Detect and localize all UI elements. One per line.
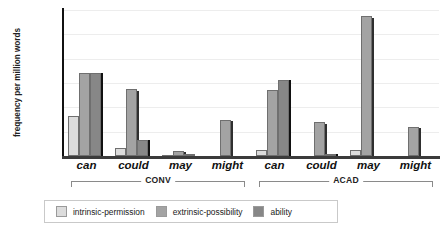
bar-edge-tick [101, 73, 103, 156]
bar-shadow [325, 124, 327, 158]
chart-figure: frequency of can, could, may, might freq… [0, 0, 443, 225]
bar-series-container [63, 10, 439, 156]
bar-extrinsic-possibility-CONV-can [79, 73, 90, 156]
bar-extrinsic-possibility-ACAD-could [314, 122, 325, 156]
bar-face [220, 120, 231, 157]
x-tick-label-might-acad: might [400, 159, 431, 171]
group-label: ACAD [329, 175, 363, 185]
bar-face [361, 16, 372, 156]
bar-face [278, 80, 289, 156]
bar-face [115, 148, 126, 156]
bar-ability-ACAD-can [278, 80, 289, 156]
legend-label: extrinsic-possibility [173, 207, 243, 217]
x-tick-label-can-acad: can [265, 159, 285, 171]
bar-face [408, 127, 419, 156]
x-tick-label-may-conv: may [169, 159, 192, 171]
x-tick-label-could-acad: could [306, 159, 337, 171]
bar-extrinsic-possibility-ACAD-might [408, 127, 419, 156]
x-tick-label-can-conv: can [77, 159, 97, 171]
bar-intrinsic-permission-CONV-could [115, 148, 126, 156]
x-axis-labels: cancouldmaymightcancouldmaymight [63, 159, 439, 177]
legend-label: intrinsic-permission [73, 207, 145, 217]
x-tick-label-might-conv: might [212, 159, 243, 171]
y-axis-line [62, 8, 64, 158]
bar-face [126, 89, 137, 156]
plot-area [63, 10, 439, 156]
bar-edge-tick [148, 140, 150, 156]
legend-item-intrinsic-permission: intrinsic-permission [56, 206, 145, 217]
legend-swatch-ability [253, 206, 264, 217]
legend-swatch-extrinsic-possibility [156, 206, 167, 217]
group-label: CONV [141, 175, 175, 185]
chart-legend: intrinsic-permissionextrinsic-possibilit… [44, 200, 338, 223]
group-brackets: CONVACAD [63, 177, 439, 191]
legend-item-ability: ability [253, 206, 291, 217]
bar-extrinsic-possibility-ACAD-may [361, 16, 372, 156]
bar-ability-CONV-could [137, 140, 148, 156]
group-bracket-CONV: CONV [71, 181, 245, 187]
bar-face [137, 140, 148, 156]
bar-shadow [372, 18, 374, 158]
bar-extrinsic-possibility-CONV-might [220, 120, 231, 157]
bar-face [314, 122, 325, 156]
bar-face [90, 73, 101, 156]
bar-face [68, 116, 79, 156]
bar-face [267, 90, 278, 156]
bar-face [79, 73, 90, 156]
bar-shadow [231, 121, 233, 158]
bar-extrinsic-possibility-CONV-could [126, 89, 137, 156]
bar-intrinsic-permission-CONV-can [68, 116, 79, 156]
bar-shadow [419, 128, 421, 157]
group-bracket-ACAD: ACAD [259, 181, 433, 187]
bar-edge-tick [289, 80, 291, 156]
legend-label: ability [270, 207, 291, 217]
bar-extrinsic-possibility-ACAD-can [267, 90, 278, 156]
x-tick-label-may-acad: may [357, 159, 380, 171]
bar-ability-CONV-can [90, 73, 101, 156]
legend-item-extrinsic-possibility: extrinsic-possibility [156, 206, 243, 217]
legend-swatch-intrinsic-permission [56, 206, 67, 217]
x-tick-label-could-conv: could [118, 159, 149, 171]
